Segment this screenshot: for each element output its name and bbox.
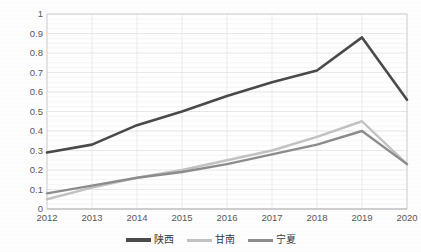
legend-swatch-icon (187, 239, 212, 242)
line-chart: 1 0.9 0.8 0.7 0.6 0.5 0.4 0.3 0.2 0.1 0 … (0, 0, 421, 252)
x-tick-label: 2017 (250, 212, 294, 224)
legend-swatch-icon (126, 238, 151, 242)
chart-legend: 陕西 甘南 宁夏 (0, 230, 421, 250)
legend-swatch-icon (248, 239, 273, 242)
x-tick-label: 2012 (25, 212, 69, 224)
legend-label: 宁夏 (276, 234, 296, 246)
legend-label: 甘南 (215, 234, 235, 246)
x-tick-label: 2019 (340, 212, 384, 224)
x-tick-label: 2018 (295, 212, 339, 224)
legend-item-shaanxi[interactable]: 陕西 (126, 234, 174, 246)
x-tick-label: 2015 (160, 212, 204, 224)
x-tick-label: 2014 (115, 212, 159, 224)
x-axis-tick-labels: 2012 2013 2014 2015 2016 2017 2018 2019 … (0, 212, 421, 230)
legend-item-gansu[interactable]: 甘南 (187, 234, 235, 246)
x-tick-label: 2020 (385, 212, 421, 224)
x-tick-label: 2013 (70, 212, 114, 224)
x-tick-label: 2016 (205, 212, 249, 224)
legend-item-ningxia[interactable]: 宁夏 (248, 234, 296, 246)
legend-label: 陕西 (154, 234, 174, 246)
